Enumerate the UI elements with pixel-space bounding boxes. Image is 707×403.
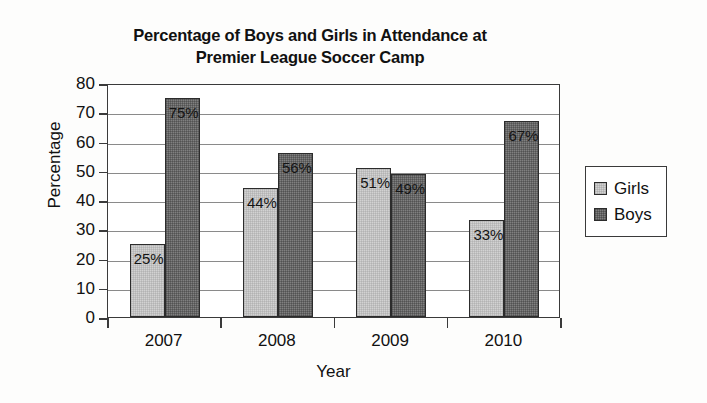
bar-value-label: 49% xyxy=(395,180,425,197)
x-tick-label: 2007 xyxy=(119,331,209,351)
legend-swatch-icon xyxy=(594,182,607,195)
bar-value-label: 44% xyxy=(247,194,277,211)
y-tick-label: 20 xyxy=(49,250,95,270)
x-tick-mark xyxy=(107,318,109,328)
chart-legend: GirlsBoys xyxy=(585,166,667,237)
legend-item-girls: Girls xyxy=(594,175,659,201)
page-title: Percentage of Boys and Girls in Attendan… xyxy=(60,24,560,69)
legend-label: Girls xyxy=(614,180,649,197)
bar-value-label: 25% xyxy=(134,250,164,267)
x-tick-mark xyxy=(560,318,562,328)
y-tick-label: 80 xyxy=(49,74,95,94)
x-tick-label: 2009 xyxy=(345,331,435,351)
bar-2009-girls: 51% xyxy=(356,168,391,317)
bar-value-label: 75% xyxy=(169,104,199,121)
x-tick-label: 2010 xyxy=(458,331,548,351)
bar-value-label: 67% xyxy=(508,127,538,144)
x-tick-mark xyxy=(220,318,222,328)
x-axis-title: Year xyxy=(107,362,560,382)
legend-swatch-icon xyxy=(594,208,607,221)
bar-value-label: 56% xyxy=(282,159,312,176)
chart-title-line-2: Premier League Soccer Camp xyxy=(60,46,560,68)
plot-area: 25%75%44%56%51%49%33%67% xyxy=(107,84,560,318)
bar-value-label: 33% xyxy=(473,226,503,243)
x-tick-mark xyxy=(447,318,449,328)
chart-screenshot: Percentage of Boys and Girls in Attendan… xyxy=(0,0,707,403)
legend-label: Boys xyxy=(614,206,652,223)
bar-value-label: 51% xyxy=(360,174,390,191)
y-tick-label: 60 xyxy=(49,133,95,153)
y-tick-label: 50 xyxy=(49,162,95,182)
bar-2007-girls: 25% xyxy=(130,244,165,317)
bar-2007-boys: 75% xyxy=(165,98,200,317)
x-tick-label: 2008 xyxy=(232,331,322,351)
bar-2010-girls: 33% xyxy=(469,220,504,317)
chart-title-line-1: Percentage of Boys and Girls in Attendan… xyxy=(60,24,560,46)
bar-2010-boys: 67% xyxy=(504,121,539,317)
legend-item-boys: Boys xyxy=(594,201,659,227)
y-tick-label: 30 xyxy=(49,220,95,240)
bar-2008-boys: 56% xyxy=(278,153,313,317)
y-tick-label: 70 xyxy=(49,103,95,123)
y-tick-label: 10 xyxy=(49,279,95,299)
bar-2009-boys: 49% xyxy=(391,174,426,317)
bar-2008-girls: 44% xyxy=(243,188,278,317)
y-tick-label: 0 xyxy=(49,308,95,328)
y-tick-label: 40 xyxy=(49,191,95,211)
x-tick-mark xyxy=(334,318,336,328)
